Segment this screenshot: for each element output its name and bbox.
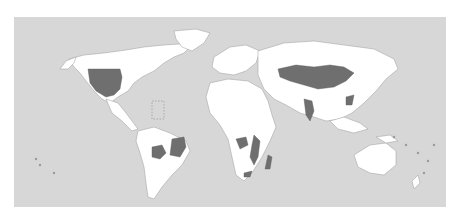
australia	[354, 143, 396, 175]
madagascar-highlight	[265, 155, 272, 169]
caribbean-hatch	[152, 101, 164, 119]
world-map	[14, 17, 446, 207]
mexico-central-america	[106, 99, 138, 131]
north-america	[60, 29, 210, 131]
southeast-asia-islands	[330, 117, 368, 133]
new-zealand	[412, 175, 420, 189]
south-america	[136, 127, 190, 199]
world-map-svg	[14, 17, 446, 207]
oceania	[354, 135, 420, 189]
asia	[258, 41, 398, 133]
